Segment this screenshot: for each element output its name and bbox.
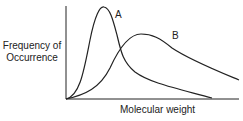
x-axis-label: Molecular weight — [120, 104, 195, 115]
y-axis-label: Frequency of Occurrence — [2, 40, 62, 64]
curve-a — [66, 7, 212, 99]
curve-b-label: B — [172, 30, 179, 41]
curve-a-label: A — [115, 9, 122, 20]
curve-b — [66, 34, 239, 99]
